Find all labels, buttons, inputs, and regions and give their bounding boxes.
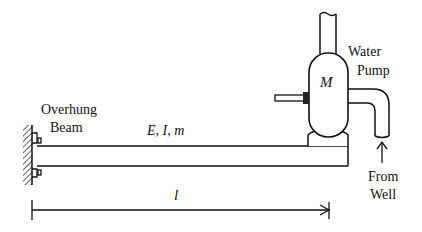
motor-shaft	[275, 92, 309, 104]
fixed-wall	[23, 125, 32, 185]
from-well-label-line2: Well	[370, 187, 396, 203]
discharge-pipe	[320, 13, 336, 55]
overhung-beam	[37, 146, 348, 166]
flow-arrow	[377, 142, 387, 163]
pump-body	[309, 53, 348, 137]
water-pump-label-line1: Water	[348, 44, 381, 60]
wall-clamps	[32, 133, 41, 177]
length-dimension	[32, 200, 329, 220]
water-pump-label-line2: Pump	[357, 63, 390, 79]
from-well-label-line1: From	[368, 169, 398, 185]
suction-pipe	[348, 89, 389, 138]
motor-label: M	[320, 74, 333, 90]
overhung-label-line1: Overhung	[41, 102, 97, 118]
overhung-label-line2: Beam	[50, 120, 83, 136]
length-label: l	[174, 187, 178, 203]
beam-properties-label: E, I, m	[147, 123, 184, 139]
